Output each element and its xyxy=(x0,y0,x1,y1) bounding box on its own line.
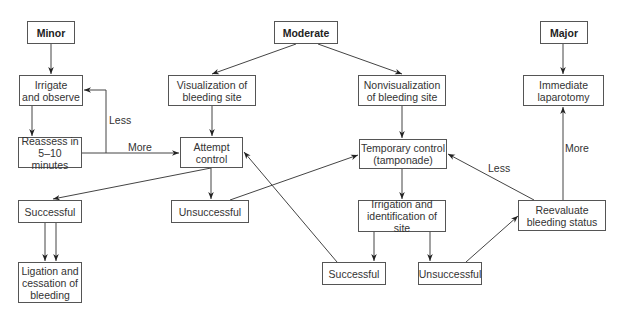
node-unsuccessful-mid: Unsuccessful xyxy=(418,262,482,285)
node-ligation: Ligation and cessation of bleeding xyxy=(18,262,82,303)
edge-label-more-left: More xyxy=(128,141,152,153)
arrow-moderate-visualization xyxy=(212,44,296,74)
arrow-unsuccessful-temporary xyxy=(230,155,358,200)
node-unsuccessful-left: Unsuccessful xyxy=(171,200,249,223)
node-temporary-control: Temporary control (tamponade) xyxy=(359,139,447,169)
node-moderate: Moderate xyxy=(274,21,338,44)
node-irrigation-identification: Irrigation and identification of site xyxy=(358,200,446,232)
arrow-successmid-attempt xyxy=(244,152,337,262)
arrow-unsuccessmid-reevaluate xyxy=(466,216,518,262)
node-minor: Minor xyxy=(27,21,75,44)
node-attempt-control: Attempt control xyxy=(180,137,243,168)
connector-arrows xyxy=(0,0,624,315)
node-irrigate-and-observe: Irrigate and observe xyxy=(19,75,83,106)
node-visualization: Visualization of bleeding site xyxy=(168,75,256,106)
arrow-moderate-nonvisualization xyxy=(318,44,402,74)
arrow-reassess-less-irrigate xyxy=(84,90,106,153)
edge-label-less-right: Less xyxy=(488,162,510,174)
node-nonvisualization: Nonvisualization of bleeding site xyxy=(358,75,446,106)
arrow-attempt-successful xyxy=(53,168,211,199)
node-immediate-laparotomy: Immediate laparotomy xyxy=(523,75,604,106)
arrow-reevaluate-less-temporary xyxy=(448,154,534,200)
node-successful-mid: Successful xyxy=(322,262,386,285)
node-reevaluate: Reevaluate bleeding status xyxy=(518,200,606,231)
node-reassess: Reassess in 5–10 minutes xyxy=(18,137,82,168)
node-major: Major xyxy=(540,21,588,44)
node-successful-left: Successful xyxy=(18,200,82,223)
bleeding-management-flowchart: Minor Irrigate and observe Reassess in 5… xyxy=(0,0,624,315)
edge-label-more-right: More xyxy=(565,142,589,154)
edge-label-less-left: Less xyxy=(109,114,131,126)
